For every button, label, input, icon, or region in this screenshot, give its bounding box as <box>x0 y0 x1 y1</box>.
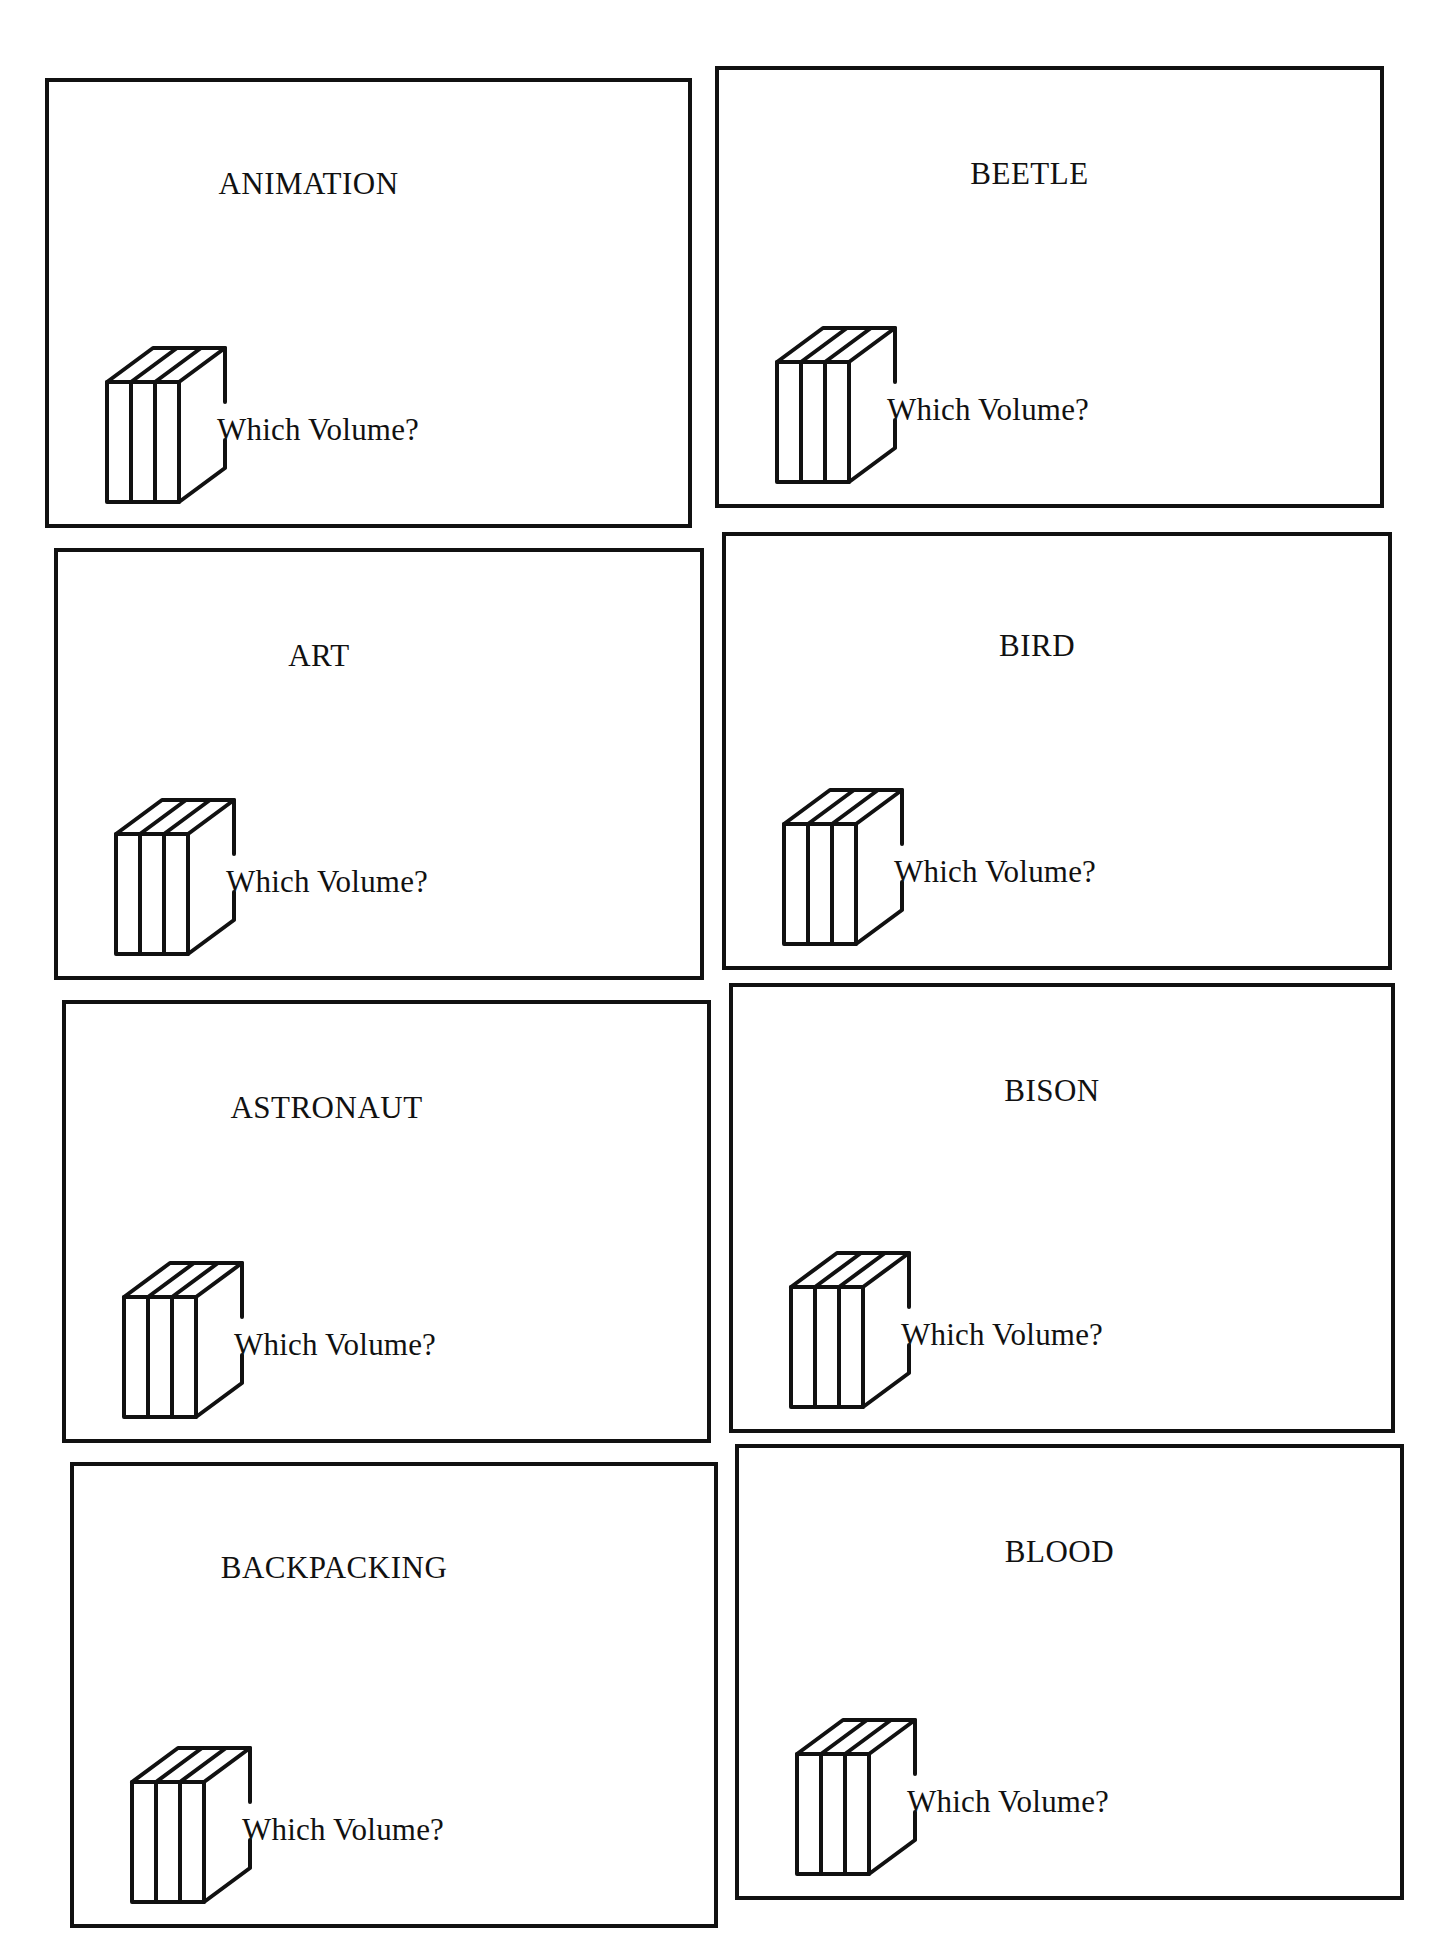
card-title: BEETLE <box>699 158 1360 189</box>
card-title: BLOOD <box>729 1536 1390 1567</box>
card-title: BACKPACKING <box>14 1552 654 1583</box>
card-title: ART <box>0 640 640 671</box>
which-volume-label: Which Volume? <box>907 1786 1109 1817</box>
books-icon <box>793 1710 919 1876</box>
volume-card-beetle: BEETLE Which Volume? <box>715 66 1384 508</box>
volume-card-blood: BLOOD Which Volume? <box>735 1444 1404 1900</box>
card-title: ANIMATION <box>0 168 628 199</box>
books-icon <box>112 790 238 956</box>
books-icon <box>120 1253 246 1419</box>
volume-card-bird: BIRD Which Volume? <box>722 532 1392 970</box>
volume-card-animation: ANIMATION Which Volume? <box>45 78 692 528</box>
which-volume-label: Which Volume? <box>234 1329 436 1360</box>
books-icon <box>787 1243 913 1409</box>
which-volume-label: Which Volume? <box>901 1319 1103 1350</box>
which-volume-label: Which Volume? <box>242 1814 444 1845</box>
card-title: ASTRONAUT <box>6 1092 647 1123</box>
volume-card-backpacking: BACKPACKING Which Volume? <box>70 1462 718 1928</box>
books-icon <box>103 338 229 504</box>
which-volume-label: Which Volume? <box>887 394 1089 425</box>
card-title: BISON <box>723 1075 1381 1106</box>
which-volume-label: Which Volume? <box>894 856 1096 887</box>
books-icon <box>780 780 906 946</box>
volume-card-art: ART Which Volume? <box>54 548 704 980</box>
books-icon <box>128 1738 254 1904</box>
which-volume-label: Which Volume? <box>217 414 419 445</box>
volume-card-astronaut: ASTRONAUT Which Volume? <box>62 1000 711 1443</box>
which-volume-label: Which Volume? <box>226 866 428 897</box>
card-title: BIRD <box>706 630 1368 661</box>
books-icon <box>773 318 899 484</box>
volume-card-bison: BISON Which Volume? <box>729 983 1395 1433</box>
